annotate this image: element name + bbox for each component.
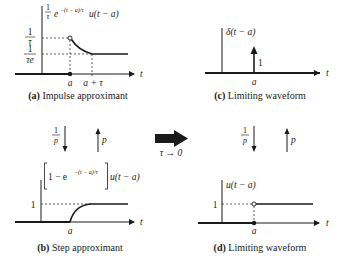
- limit-label: τ → 0: [160, 148, 183, 158]
- rise-curve: [70, 204, 128, 222]
- differentiate-label: p: [290, 135, 296, 145]
- differentiate-label: p: [101, 135, 107, 145]
- axis-t-label: t: [140, 217, 143, 227]
- axis-t-label: t: [326, 218, 329, 228]
- integrate-num: 1: [243, 126, 247, 135]
- func-label: u(t − a): [226, 180, 256, 191]
- ytick-top-num: 1: [28, 27, 33, 37]
- func-inner: 1 − e: [48, 172, 67, 182]
- integrate-num: 1: [54, 126, 58, 135]
- panel-b-step-approximant: t 1 1 − e −(t − a)/τ u(t − a) a (b) Step…: [15, 163, 143, 254]
- xtick-a-plus-tau: a + τ: [83, 78, 103, 88]
- xtick-a: a: [252, 226, 257, 236]
- func-exponent: −(t − a)/τ: [60, 7, 84, 14]
- panel-d-unit-step: t u(t − a) 1 a (d) Limiting waveform: [198, 180, 329, 254]
- operators-right: 1 p p: [241, 126, 296, 152]
- func-tail: u(t − a): [89, 9, 119, 20]
- open-circle: [68, 36, 72, 40]
- decay-curve: [72, 40, 129, 55]
- operators-left: 1 p p: [52, 126, 107, 152]
- ytick-low-den: τe: [26, 55, 34, 65]
- impulse-area: 1: [258, 58, 263, 68]
- open-circle: [252, 202, 256, 206]
- func-label: δ(t − a): [226, 27, 255, 38]
- xtick-a: a: [68, 226, 73, 236]
- ytick-low-num: 1: [28, 44, 33, 54]
- ytick-one: 1: [31, 200, 36, 210]
- xtick-a: a: [68, 78, 73, 88]
- axis-t-label: t: [326, 68, 329, 78]
- caption-d: (d) Limiting waveform: [214, 242, 307, 254]
- axis-t-label: t: [140, 69, 143, 79]
- func-exponent: −(t − a)/τ: [74, 169, 98, 176]
- limit-arrow: τ → 0: [155, 130, 188, 158]
- integrate-den: p: [53, 136, 58, 145]
- func-base: e: [54, 9, 58, 19]
- func-frac-num: 1: [46, 3, 50, 12]
- filled-dot: [252, 221, 256, 225]
- func-tail: u(t − a): [110, 172, 140, 183]
- xtick-a: a: [252, 77, 257, 87]
- caption-a: (a) Impulse approximant: [28, 90, 128, 102]
- caption-c: (c) Limiting waveform: [214, 90, 306, 102]
- func-frac-den: τ: [47, 12, 51, 21]
- filled-dot: [68, 72, 72, 76]
- integrate-den: p: [242, 136, 247, 145]
- panel-a-impulse-approximant: t 1 τ 1 τe 1 τ e −(t − a)/τ u(t − a) a a…: [15, 3, 143, 102]
- ytick-one: 1: [213, 200, 218, 210]
- impulse-arrowhead-icon: [251, 46, 258, 54]
- big-right-arrow-icon: [155, 130, 188, 147]
- waveform-diagram: t 1 τ 1 τe 1 τ e −(t − a)/τ u(t − a) a a…: [0, 0, 349, 265]
- caption-b: (b) Step approximant: [37, 242, 123, 254]
- panel-c-delta: t δ(t − a) 1 a (c) Limiting waveform: [205, 27, 329, 102]
